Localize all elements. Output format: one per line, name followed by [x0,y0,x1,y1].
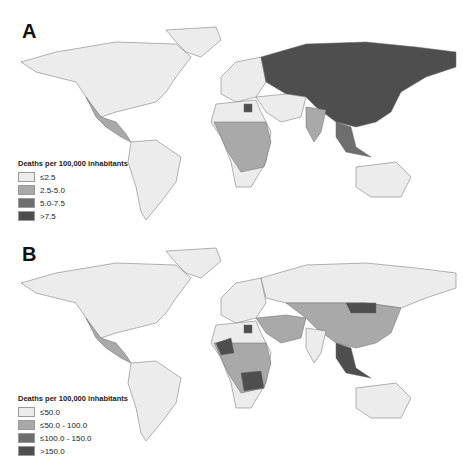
legend-swatch [18,198,35,208]
country-southeast-asia [336,122,371,157]
country-south-america [128,361,181,441]
legend-label: ≤2.5 [40,173,56,182]
legend-label: >150.0 [40,447,65,456]
legend-label: ≤50.0 - 100.0 [40,421,87,430]
legend-swatch [18,172,35,182]
country-south-america [128,140,181,220]
country-north-america [21,42,191,117]
legend-b: Deaths per 100,000 inhabitants ≤50.0 ≤50… [18,394,128,458]
country-india [306,107,326,142]
legend-item-b-3: ≤100.0 - 150.0 [18,432,128,444]
legend-label: 2.5-5.0 [40,186,65,195]
legend-item-b-1: ≤50.0 [18,406,128,418]
country-india [306,328,326,363]
legend-item-a-4: >7.5 [18,210,128,222]
legend-title-b: Deaths per 100,000 inhabitants [18,394,128,403]
country-australia [356,383,411,418]
legend-label: ≤100.0 - 150.0 [40,434,92,443]
country-north-america [21,263,191,338]
legend-swatch [18,446,35,456]
map-panel-a: A Deaths per 100,000 inhabitants ≤2.5 2.… [0,0,463,231]
country-angola-zambia [241,371,264,391]
legend-swatch [18,211,35,221]
legend-swatch [18,407,35,417]
legend-item-b-2: ≤50.0 - 100.0 [18,419,128,431]
legend-swatch [18,433,35,443]
legend-label: ≤50.0 [40,408,60,417]
legend-item-b-4: >150.0 [18,445,128,457]
legend-swatch [18,420,35,430]
legend-item-a-3: 5.0-7.5 [18,197,128,209]
country-egypt [244,104,252,112]
country-central-africa [214,122,271,172]
country-egypt [244,325,252,333]
legend-a: Deaths per 100,000 inhabitants ≤2.5 2.5-… [18,159,128,223]
panel-label-b: B [22,243,36,266]
legend-label: >7.5 [40,212,56,221]
legend-title-a: Deaths per 100,000 inhabitants [18,159,128,168]
country-australia [356,162,411,197]
country-mongolia [346,303,376,313]
legend-item-a-1: ≤2.5 [18,171,128,183]
country-europe [221,57,266,102]
country-europe [221,278,266,323]
legend-label: 5.0-7.5 [40,199,65,208]
map-panel-b: B Deaths per 100,000 inhabitants ≤50.0 ≤… [0,231,463,462]
country-russia [261,263,456,308]
legend-swatch [18,185,35,195]
country-southeast-asia [336,343,371,378]
panel-label-a: A [22,20,36,43]
legend-item-a-2: 2.5-5.0 [18,184,128,196]
